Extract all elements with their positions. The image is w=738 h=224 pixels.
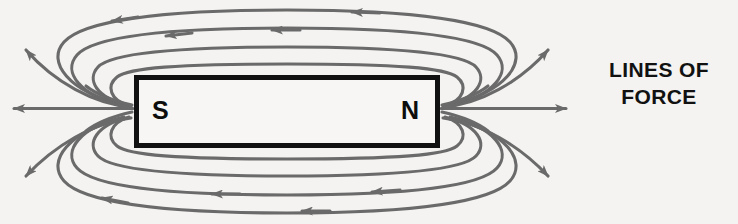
- field-arrow-bottom-second-right: [372, 190, 400, 192]
- bar-magnet: [137, 78, 438, 146]
- north-pole-label: N: [401, 96, 419, 125]
- field-arrow-top-second-left: [166, 33, 192, 36]
- caption-line-1: LINES OF: [583, 56, 735, 83]
- field-arrow-top-outer-right: [352, 12, 380, 13]
- field-lines-svg: [0, 0, 738, 224]
- south-pole-label: S: [152, 96, 169, 125]
- magnetic-field-diagram: S N LINES OF FORCE: [0, 0, 738, 224]
- field-arrow-top-outer-left: [112, 17, 138, 21]
- caption-lines-of-force: LINES OF FORCE: [583, 56, 735, 110]
- caption-line-2: FORCE: [583, 83, 735, 110]
